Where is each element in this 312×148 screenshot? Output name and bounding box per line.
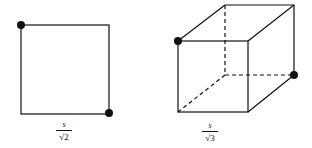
label-numerator: s bbox=[202, 121, 218, 130]
cube-vertex-dot-back-bottom-right bbox=[290, 71, 298, 79]
cube-side-label: s √3 bbox=[202, 121, 218, 143]
cube-back-edges bbox=[225, 5, 294, 75]
fraction-bar bbox=[56, 130, 72, 131]
cube-edge-top-left bbox=[178, 5, 225, 41]
cube-vertex-dot-front-top-left bbox=[174, 37, 182, 45]
square-figure bbox=[21, 25, 109, 114]
square-side-label: s √2 bbox=[56, 120, 72, 142]
cube-figure bbox=[178, 5, 294, 112]
square-vertex-dot-bottom-right bbox=[105, 109, 113, 117]
square-outline bbox=[21, 25, 109, 114]
label-denominator: √3 bbox=[202, 133, 218, 143]
label-numerator: s bbox=[56, 120, 72, 129]
fraction-bar bbox=[202, 131, 218, 132]
cube-hidden-edges bbox=[178, 5, 294, 112]
label-denominator: √2 bbox=[56, 132, 72, 142]
cube-edge-bottom-right bbox=[248, 75, 294, 112]
square-vertex-dot-top-left bbox=[17, 21, 25, 29]
cube-edge-top-right bbox=[248, 5, 294, 41]
cube-front-face bbox=[178, 41, 248, 112]
diagram-canvas bbox=[0, 0, 312, 148]
